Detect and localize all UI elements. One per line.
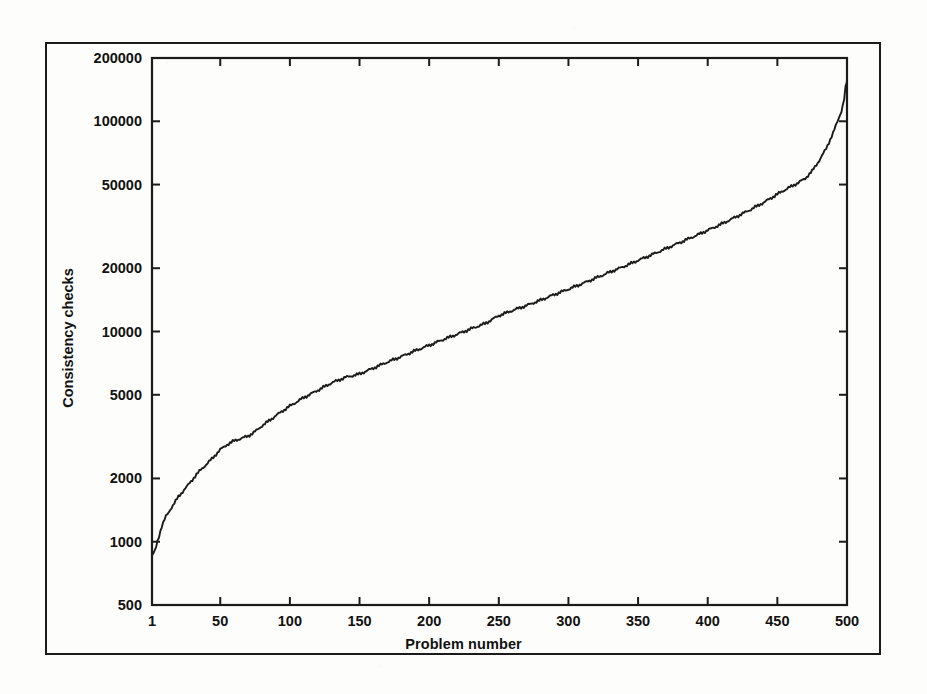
y-tick-label: 5000 — [110, 387, 142, 403]
y-tick-label: 20000 — [102, 260, 142, 276]
x-tick-label: 400 — [696, 613, 720, 629]
x-tick-label: 1 — [148, 613, 156, 629]
y-tick-label: 2000 — [110, 470, 142, 486]
data-series-group — [152, 81, 847, 555]
y-axis-title-text: Consistency checks — [60, 268, 76, 407]
axes-frame — [152, 58, 847, 605]
x-tick-label: 300 — [556, 613, 580, 629]
x-tick-label: 350 — [626, 613, 650, 629]
x-tick-label: 450 — [765, 613, 789, 629]
data-series-line-0 — [152, 81, 847, 555]
figure-container: 5001000200050001000020000500001000002000… — [0, 0, 927, 694]
y-tick-label: 1000 — [110, 534, 142, 550]
x-tick-label: 100 — [278, 613, 302, 629]
y-tick-label: 10000 — [102, 324, 142, 340]
y-tick-label: 200000 — [94, 50, 142, 66]
x-tick-label: 50 — [212, 613, 228, 629]
chart-plot-area — [0, 0, 927, 694]
y-tick-label: 500 — [118, 597, 142, 613]
y-axis-title: Consistency checks — [57, 218, 79, 458]
axes-ticks — [152, 58, 847, 605]
x-axis-title: Problem number — [0, 636, 927, 652]
x-tick-label: 150 — [347, 613, 371, 629]
x-tick-label: 200 — [417, 613, 441, 629]
x-tick-label: 250 — [487, 613, 511, 629]
x-tick-label: 500 — [835, 613, 859, 629]
y-tick-label: 50000 — [102, 177, 142, 193]
y-tick-label: 100000 — [94, 113, 142, 129]
